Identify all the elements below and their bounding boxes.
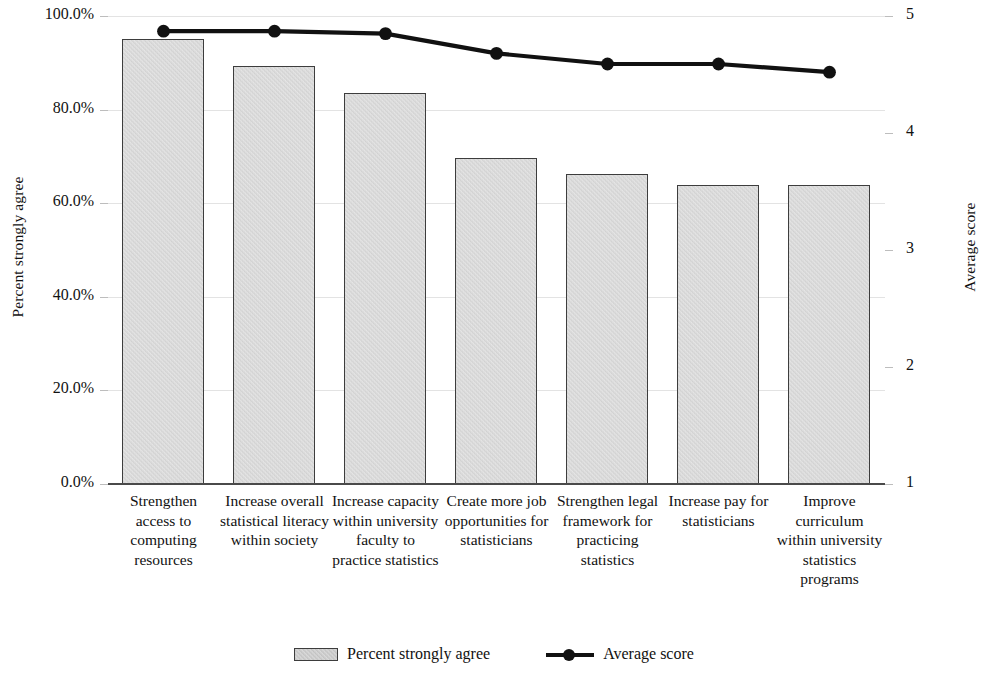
y-axis-right-tick-label: 5 [906,5,966,23]
x-axis-category-label: Increase capacity within university facu… [330,487,441,642]
y-axis-left-tick [100,297,108,298]
x-axis-baseline [108,483,885,485]
legend-label: Average score [603,645,694,663]
legend-label: Percent strongly agree [347,645,490,663]
y-axis-left-tick-label: 20.0% [0,379,94,397]
y-axis-left-tick-label: 60.0% [0,192,94,210]
plot-area [108,16,885,484]
y-axis-left-title: Percent strongly agree [9,157,27,337]
x-axis-category-label: Strengthen access to computing resources [108,487,219,642]
x-axis-category-label: Increase pay for statisticians [663,487,774,642]
x-axis-category-label: Increase overall statistical literacy wi… [219,487,330,642]
y-axis-left-tick [100,484,108,485]
y-axis-right-tick-label: 2 [906,356,966,374]
line-marker [601,58,614,71]
bar [677,185,759,484]
x-axis-category-labels: Strengthen access to computing resources… [108,487,885,642]
chart-figure: Percent strongly agree Average score 100… [0,0,988,678]
line-marker [268,25,281,38]
line-marker [490,47,503,60]
line-marker [712,58,725,71]
y-axis-left-tick [100,203,108,204]
y-axis-right-tick-label: 3 [906,239,966,257]
y-axis-left-tick-label: 80.0% [0,99,94,117]
legend-line-marker-icon [546,647,594,661]
bar [233,66,315,484]
line-marker [157,25,170,38]
y-axis-right-tick [885,133,893,134]
bar [344,93,426,484]
y-axis-right-tick-label: 1 [906,473,966,491]
line-marker [823,66,836,79]
bar [455,158,537,484]
y-axis-right-tick [885,250,893,251]
x-axis-category-label: Create more job opportunities for statis… [441,487,552,642]
y-axis-right-tick-label: 4 [906,122,966,140]
bar [122,39,204,485]
y-axis-left-tick [100,16,108,17]
y-axis-left-tick [100,110,108,111]
chart-legend: Percent strongly agreeAverage score [0,645,988,663]
y-axis-left-tick-label: 0.0% [0,473,94,491]
gridline [108,110,885,111]
x-axis-category-label: Improve curriculum within university sta… [774,487,885,642]
gridline [108,16,885,17]
line-marker [379,27,392,40]
y-axis-right-tick [885,484,893,485]
y-axis-left-tick [100,390,108,391]
bar [788,185,870,484]
legend-entry[interactable]: Average score [546,645,694,663]
y-axis-left-tick-label: 40.0% [0,286,94,304]
y-axis-left-tick-label: 100.0% [0,5,94,23]
x-axis-category-label: Strengthen legal framework for practicin… [552,487,663,642]
legend-bar-swatch-icon [294,648,338,661]
bar [566,174,648,484]
legend-entry[interactable]: Percent strongly agree [294,645,490,663]
y-axis-right-tick [885,16,893,17]
y-axis-right-tick [885,367,893,368]
